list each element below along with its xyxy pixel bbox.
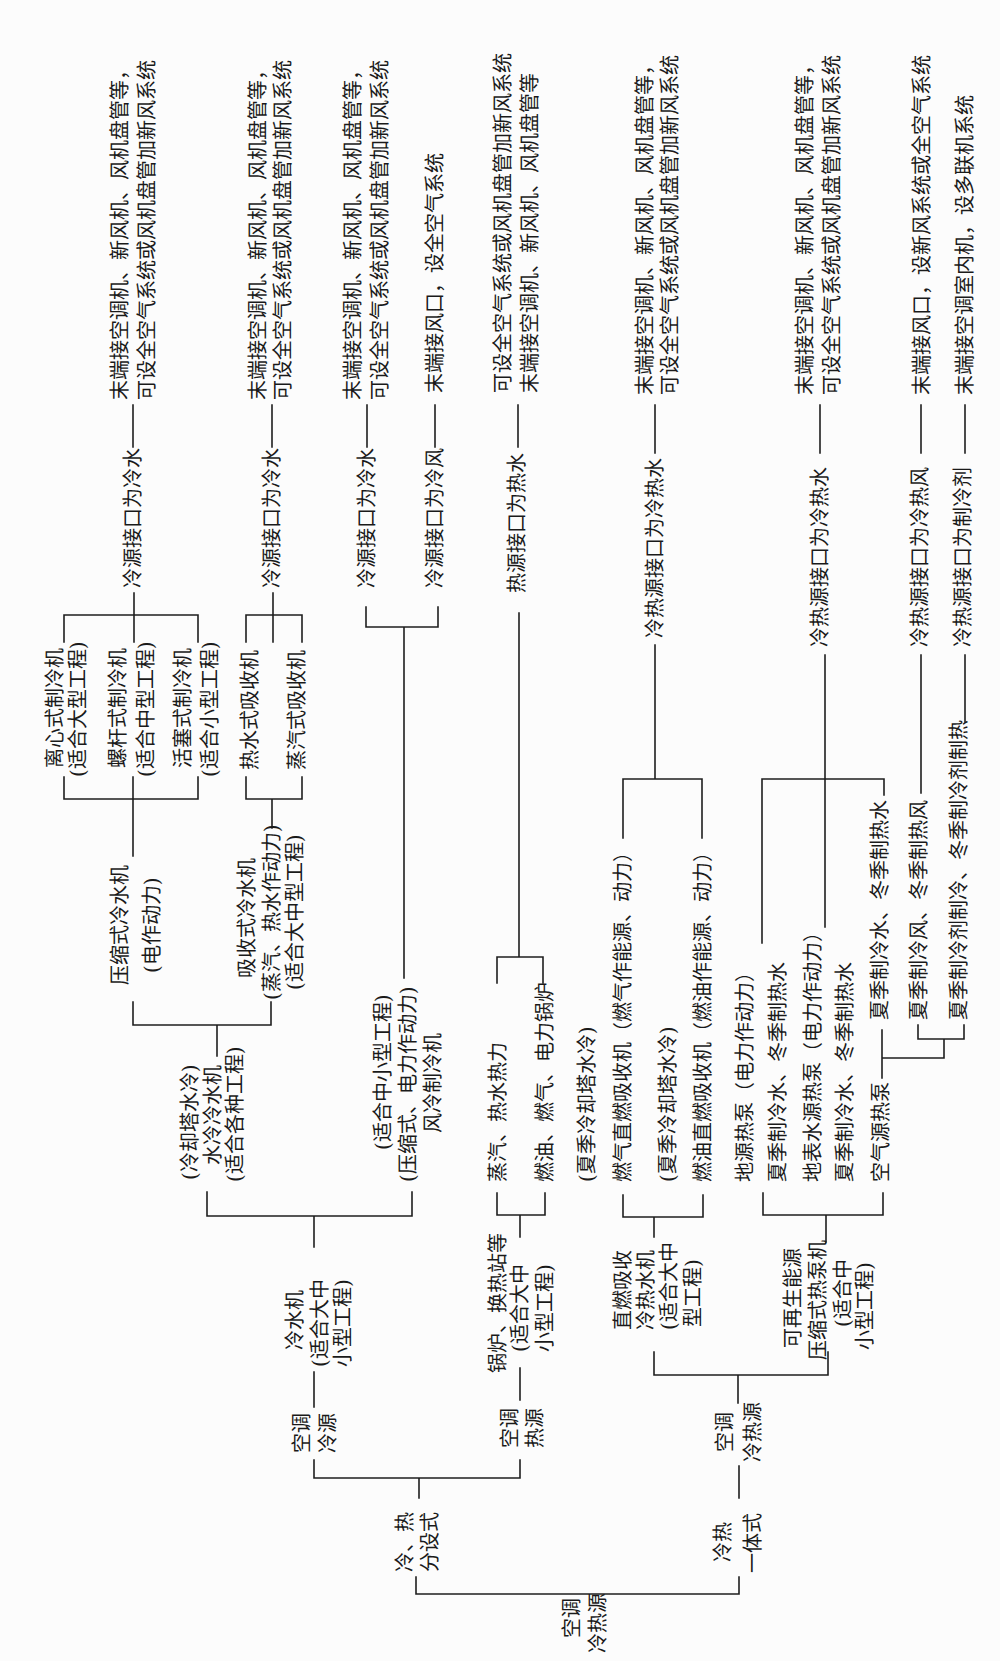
air-cooled-label-line-2: (压缩式、电力作动力): [396, 986, 420, 1182]
district-heat-label: 蒸汽、热水热力: [486, 1042, 510, 1182]
compression-label-line-1: 压缩式冷水机: [108, 865, 132, 985]
gas-fired-label: 燃气直燃吸收机（燃气作能源、动力）: [611, 842, 635, 1182]
heat-source-label-line-2: 热源: [523, 1408, 547, 1448]
ground-source-label-line-2: 夏季制冷水、冬季制热水: [766, 962, 790, 1182]
cold-source-label-line-1: 空调: [290, 1413, 314, 1453]
oil-fired-label: 燃油直燃吸收机（燃油作能源、动力）: [691, 842, 715, 1182]
interface-label: 冷热源接口为冷热风: [908, 467, 932, 647]
terminal-label-line-1: 末端接空调机、新风机、风机盘管等，: [108, 60, 132, 400]
piston-label-line-1: 活塞式制冷机: [171, 648, 195, 768]
surface-water-label-line-2: 夏季制冷水、冬季制热水: [833, 962, 857, 1182]
boiler-label-line-1: 锅炉、换热站等: [486, 1233, 510, 1373]
boiler-label-line-3: 小型工程): [533, 1264, 557, 1352]
terminal-label-line-1: 末端接空调机、新风机、风机盘管等，: [246, 60, 270, 400]
air-cooled-label-line-1: (适合中小型工程): [371, 994, 395, 1150]
chiller-label-line-1: 冷水机: [283, 1290, 307, 1350]
screw-label-line-2: (适合中型工程): [134, 641, 158, 777]
terminal-label-line-1: 可设全空气系统或风机盘管加新风系统: [491, 53, 515, 393]
gas-fired-note: (夏季冷却塔水冷): [575, 1026, 599, 1182]
interface-label: 热源接口为热水: [505, 453, 529, 593]
interface-label: 冷源接口为冷水: [260, 448, 284, 588]
air-source-mode-water: 夏季制冷水、冬季制热水: [868, 800, 892, 1020]
air-cooled-label-line-3: 风冷制冷机: [421, 1033, 445, 1133]
integrated-label-line-2: 一体式: [741, 1513, 765, 1573]
interface-label: 冷源接口为冷水: [355, 448, 379, 588]
terminal-label-line-2: 可设全空气系统或风机盘管加新风系统: [820, 55, 844, 395]
heat-pump-label-line-4: 小型工程): [853, 1262, 877, 1350]
water-cooled-label-line-3: (适合各种工程): [223, 1046, 247, 1182]
water-cooled-label-line-2: 水冷冷水机: [201, 1065, 225, 1165]
boiler-types-label: 燃油、燃气、电力锅炉: [533, 982, 557, 1182]
cold-source-label-line-2: 冷源: [316, 1413, 340, 1453]
interface-label: 冷热源接口为冷热水: [643, 458, 667, 638]
heat-pump-label-line-2: 压缩式热泵机: [806, 1240, 830, 1360]
chiller-label-line-2: (适合大中: [308, 1279, 332, 1367]
direct-fired-label-line-3: (适合大中: [657, 1242, 681, 1330]
interface-label: 冷热源接口为冷热水: [808, 467, 832, 647]
direct-fired-label-line-4: 型工程): [681, 1259, 705, 1327]
chiller-label-line-3: 小型工程): [331, 1279, 355, 1367]
label-layer: 空调 冷热源 冷、热 分设式 冷热 一体式 空调 冷源 冷水机 (适合大中 小型…: [0, 0, 1000, 1661]
terminal-label: 末端接空调室内机，设多联机系统: [953, 95, 977, 395]
terminal-label: 末端接风口，设新风系统或全空气系统: [910, 55, 934, 395]
heat-pump-label-line-1: 可再生能源: [781, 1248, 805, 1348]
screw-label-line-1: 螺杆式制冷机: [106, 648, 130, 768]
terminal-label-line-1: 末端接空调机、新风机、风机盘管等，: [341, 60, 365, 400]
integrated-label-line-1: 冷热: [711, 1522, 735, 1562]
heat-pump-label-line-3: (适合中: [831, 1259, 855, 1327]
air-source-label: 空气源热泵: [869, 1082, 893, 1182]
steam-absorption-label: 蒸汽式吸收机: [285, 650, 309, 770]
interface-label: 冷源接口为冷风: [423, 448, 447, 588]
separate-label-line-2: 分设式: [418, 1512, 442, 1572]
hot-water-absorption-label: 热水式吸收机: [238, 650, 262, 770]
centrifugal-label-line-1: 离心式制冷机: [43, 648, 67, 768]
integrated-source-label-line-1: 空调: [713, 1412, 737, 1452]
terminal-label: 末端接风口，设全空气系统: [423, 153, 447, 393]
compression-label-line-2: (电作动力): [140, 877, 164, 973]
terminal-label-line-2: 可设全空气系统或风机盘管加新风系统: [135, 60, 159, 400]
direct-fired-label-line-2: 冷热水机: [634, 1250, 658, 1330]
air-source-mode-air: 夏季制冷风、冬季制热风: [907, 800, 931, 1020]
oil-fired-note: (夏季冷却塔水冷): [656, 1026, 680, 1182]
ground-source-label-line-1: 地源热泵（电力作动力）: [733, 962, 757, 1182]
absorption-label-line-2: (蒸汽、热水作动力): [260, 824, 284, 1000]
interface-label: 冷热源接口为制冷剂: [951, 467, 975, 647]
centrifugal-label-line-2: (适合大型工程): [66, 641, 90, 777]
separate-label-line-1: 冷、热: [393, 1512, 417, 1572]
absorption-label-line-1: 吸收式冷水机: [235, 858, 259, 978]
surface-water-label-line-1: 地表水源热泵（电力作动力）: [801, 922, 825, 1182]
interface-label: 冷源接口为冷水: [121, 448, 145, 588]
piston-label-line-2: (适合小型工程): [198, 641, 222, 777]
direct-fired-label-line-1: 直燃吸收: [611, 1250, 635, 1330]
boiler-label-line-2: (适合大中: [508, 1264, 532, 1352]
terminal-label-line-1: 末端接空调机、新风机、风机盘管等，: [793, 55, 817, 395]
terminal-label-line-2: 末端接空调机、新风机、风机盘管等: [518, 73, 542, 393]
water-cooled-label-line-1: (冷却塔水冷): [178, 1064, 202, 1180]
terminal-label-line-2: 可设全空气系统或风机盘管加新风系统: [368, 60, 392, 400]
terminal-label-line-2: 可设全空气系统或风机盘管加新风系统: [271, 60, 295, 400]
terminal-label-line-1: 末端接空调机、新风机、风机盘管等，: [633, 55, 657, 395]
root-label-line-2: 冷热源: [586, 1593, 610, 1653]
heat-source-label-line-1: 空调: [498, 1408, 522, 1448]
absorption-label-line-3: (适合大中型工程): [283, 834, 307, 990]
root-label-line-1: 空调: [560, 1598, 584, 1638]
hvac-source-tree-diagram: 空调 冷热源 冷、热 分设式 冷热 一体式 空调 冷源 冷水机 (适合大中 小型…: [0, 0, 1000, 1661]
integrated-source-label-line-2: 冷热源: [741, 1402, 765, 1462]
terminal-label-line-2: 可设全空气系统或风机盘管加新风系统: [658, 55, 682, 395]
air-source-mode-refrigerant: 夏季制冷剂制冷、冬季制冷剂制热: [947, 720, 971, 1020]
